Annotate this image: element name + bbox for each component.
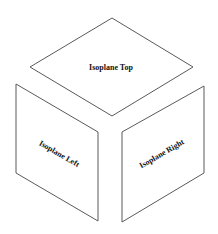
isoplane-left-face: Isoplane Left bbox=[16, 84, 98, 221]
isoplane-cube-diagram: Isoplane Top Isoplane Left Isoplane Righ… bbox=[0, 0, 218, 234]
isoplane-top-label: Isoplane Top bbox=[89, 63, 133, 72]
isoplane-top-face: Isoplane Top bbox=[30, 18, 193, 116]
isoplane-right-face: Isoplane Right bbox=[122, 86, 204, 222]
